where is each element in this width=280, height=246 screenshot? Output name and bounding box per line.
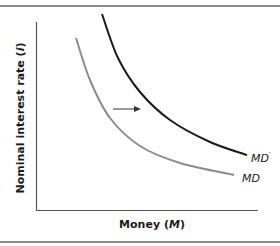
md-prime-label: MD′ (251, 151, 271, 165)
y-axis-label: Nominal interest rate (i) (14, 43, 27, 194)
arrow-head-icon (134, 106, 141, 112)
shift-arrow (113, 106, 141, 112)
md-label: MD (242, 172, 260, 185)
money-demand-chart: MD′ MD Money (M) Nominal interest rate (… (0, 0, 280, 246)
x-axis-label: Money (M) (119, 218, 185, 231)
